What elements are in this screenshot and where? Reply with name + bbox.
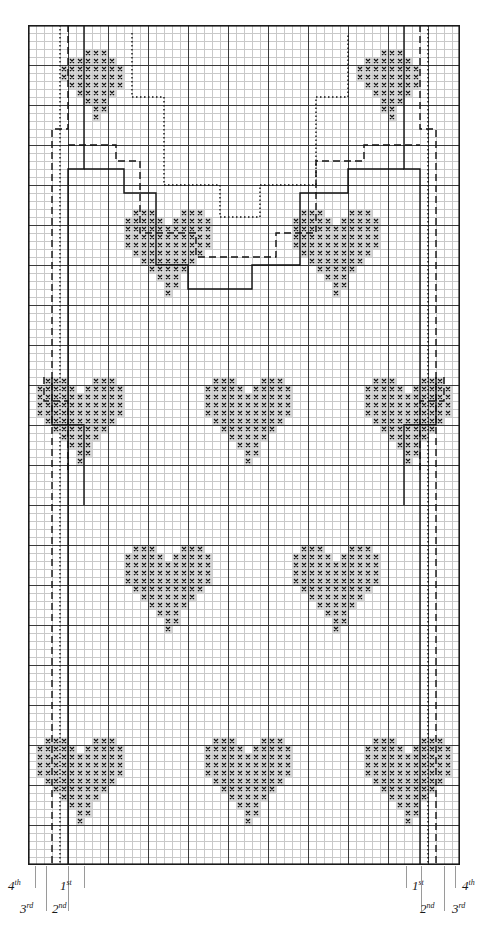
size-label-left-3rd: 3rd	[20, 901, 33, 917]
size-label-leader-left-4	[84, 866, 85, 888]
size-label-left-2nd: 2nd	[52, 901, 67, 917]
size-label-leader-right-1	[406, 866, 407, 888]
size-label-left-4th: 4th	[8, 878, 21, 894]
size-label-right-3rd: 3rd	[452, 901, 465, 917]
size-label-right-2nd: 2nd	[420, 901, 435, 917]
chart-grid-area	[28, 25, 460, 865]
size-label-leader-right-4	[455, 866, 456, 888]
size-label-leader-right-3	[444, 866, 445, 911]
size-label-left-1st: 1st	[60, 878, 72, 894]
size-label-right-1st: 1st	[412, 878, 424, 894]
size-label-leader-left-1	[35, 866, 36, 888]
chart-grid-canvas	[28, 25, 460, 865]
size-label-leader-left-2	[46, 866, 47, 911]
size-label-right-4th: 4th	[462, 878, 475, 894]
